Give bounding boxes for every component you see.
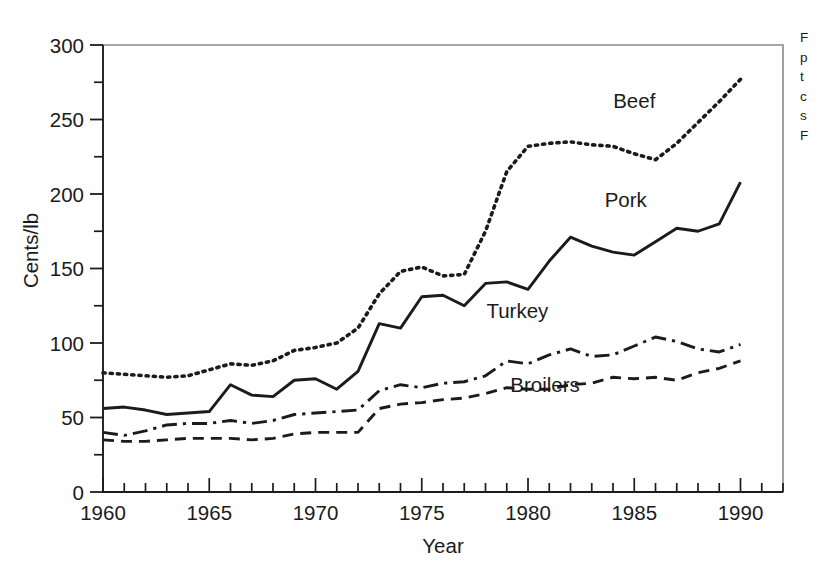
y-axis-title: Cents/lb: [19, 213, 42, 288]
plot-frame: [103, 45, 783, 492]
y-axis-tick-label: 200: [50, 183, 84, 206]
x-axis-tick-label: 1990: [718, 501, 764, 524]
x-axis-tick-label: 1970: [293, 501, 339, 524]
caption-line: s: [800, 106, 822, 126]
y-axis-tick-label: 150: [50, 257, 84, 280]
x-axis-tick-label: 1985: [611, 501, 657, 524]
series-line-turkey: [103, 337, 741, 435]
y-axis-tick-label: 300: [50, 34, 84, 57]
caption-text-block: F p t c s F: [800, 28, 822, 145]
caption-line: p: [800, 48, 822, 68]
y-axis-tick-label: 50: [61, 406, 84, 429]
y-axis-tick-label: 100: [50, 332, 84, 355]
caption-line: F: [800, 28, 822, 48]
series-label-broilers: Broilers: [510, 373, 580, 396]
meat-price-line-chart: 0501001502002503001960196519701975198019…: [0, 0, 822, 579]
y-axis-tick-label: 250: [50, 108, 84, 131]
x-axis-title: Year: [422, 534, 464, 557]
caption-line: c: [800, 87, 822, 107]
x-axis-tick-label: 1965: [186, 501, 232, 524]
series-line-beef: [103, 79, 741, 377]
x-axis-tick-label: 1980: [505, 501, 551, 524]
x-axis-tick-label: 1960: [80, 501, 126, 524]
figure-container: 0501001502002503001960196519701975198019…: [0, 0, 822, 579]
x-axis-tick-label: 1975: [399, 501, 445, 524]
series-line-pork: [103, 182, 741, 414]
series-label-beef: Beef: [613, 89, 655, 112]
series-label-pork: Pork: [605, 188, 648, 211]
caption-line: F: [800, 126, 822, 146]
caption-line: t: [800, 67, 822, 87]
series-label-turkey: Turkey: [486, 299, 549, 322]
